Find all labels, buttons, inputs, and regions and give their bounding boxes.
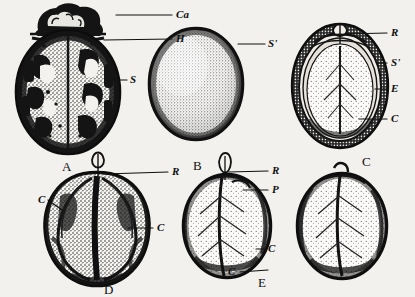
leader-line-radicle [228, 171, 268, 172]
plate-artwork [0, 0, 415, 297]
label-cotyledon: C [38, 194, 46, 205]
panel-letter-a: A [62, 160, 71, 173]
label-outer-shell: S' [268, 38, 278, 49]
leader-line-hilum [104, 39, 172, 40]
label-calyx: Ca [176, 9, 189, 20]
label-cotyledon: C [157, 222, 165, 233]
panel-letter-e: E [258, 276, 266, 289]
label-radicle: R [272, 165, 280, 176]
label-endosperm: E [391, 83, 399, 94]
panel-c-artwork [292, 24, 388, 148]
label-radicle: R [391, 27, 399, 38]
panel-a-artwork [16, 3, 120, 154]
panel-e-second-kernel-artwork [297, 163, 387, 279]
illustration-plate: CaHSS'RS'ECRCCRPCC ABCDE [0, 0, 415, 297]
label-hilum: H [176, 33, 185, 44]
panel-b-artwork [149, 28, 243, 140]
label-radicle: R [172, 166, 180, 177]
label-cotyledon: C [391, 113, 399, 124]
label-shell-layer: S' [391, 57, 401, 68]
label-cotyledon: C [268, 243, 276, 254]
label-plumule: P [272, 184, 279, 195]
panel-letter-c: C [362, 155, 371, 168]
label-cotyledon: C [228, 266, 236, 277]
panel-letter-b: B [193, 159, 202, 172]
label-seed-coat: S [130, 74, 136, 85]
panel-letter-d: D [104, 283, 113, 296]
